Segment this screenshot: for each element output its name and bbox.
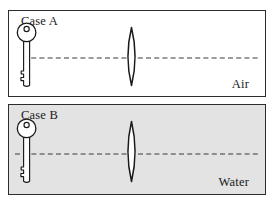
biconvex-lens-icon <box>128 122 135 182</box>
panel-case-b-water: Case B Water <box>8 104 266 195</box>
panel-case-a-air: Case A Air <box>8 10 266 97</box>
key-icon <box>17 23 36 86</box>
scene-water <box>9 105 265 194</box>
biconvex-lens-icon <box>128 28 135 86</box>
optics-figure: Case A Air Case B Water <box>0 0 274 204</box>
scene-air <box>9 11 265 96</box>
key-icon <box>17 119 36 182</box>
